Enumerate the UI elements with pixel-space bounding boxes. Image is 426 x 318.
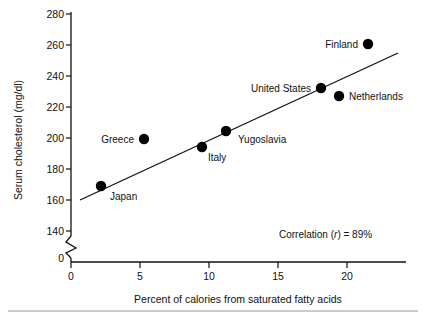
point-label-yugoslavia: Yugoslavia [238, 134, 287, 145]
x-tick-label-5: 5 [137, 270, 143, 282]
point-label-greece: Greece [101, 134, 134, 145]
y-tick-label-260: 260 [46, 39, 64, 51]
data-point-greece[interactable] [139, 134, 149, 144]
y-tick-label-220: 220 [46, 101, 64, 113]
scatter-plot-figure: Serum cholesterol (mg/dl) 280 260 240 22… [0, 0, 426, 318]
point-label-united-states: United States [251, 83, 311, 94]
y-tick-label-0: 0 [58, 252, 64, 264]
y-tick-label-180: 180 [46, 163, 64, 175]
y-tick-label-240: 240 [46, 70, 64, 82]
x-axis-title: Percent of calories from saturated fatty… [134, 293, 342, 305]
data-point-yugoslavia[interactable] [221, 126, 231, 136]
y-tick-label-160: 160 [46, 194, 64, 206]
correlation-annotation: Correlation (r) = 89% [279, 229, 372, 240]
y-axis-break-icon [66, 236, 76, 258]
y-tick-label-280: 280 [46, 8, 64, 20]
y-tick-label-200: 200 [46, 132, 64, 144]
data-point-italy[interactable] [197, 142, 207, 152]
x-tick-label-15: 15 [272, 270, 284, 282]
point-label-netherlands: Netherlands [349, 91, 403, 102]
data-point-united-states[interactable] [316, 83, 326, 93]
point-label-italy: Italy [208, 152, 226, 163]
regression-line [80, 53, 398, 200]
correlation-prefix: Correlation ( [279, 229, 335, 240]
data-point-finland[interactable] [363, 39, 373, 49]
x-tick-label-0: 0 [68, 270, 74, 282]
correlation-suffix: ) = 89% [337, 229, 372, 240]
point-label-finland: Finland [325, 39, 358, 50]
data-point-japan[interactable] [96, 181, 106, 191]
x-tick-label-20: 20 [341, 270, 353, 282]
y-axis-title: Serum cholesterol (mg/dl) [12, 80, 24, 200]
point-label-japan: Japan [110, 191, 137, 202]
y-tick-label-140: 140 [46, 225, 64, 237]
data-point-netherlands[interactable] [334, 91, 344, 101]
x-tick-label-10: 10 [203, 270, 215, 282]
chart-canvas: Serum cholesterol (mg/dl) 280 260 240 22… [0, 0, 426, 318]
